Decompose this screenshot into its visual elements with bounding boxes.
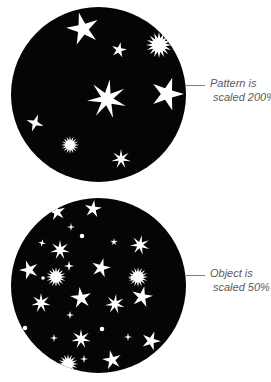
star-icon — [70, 287, 91, 308]
pattern-callout-text: Pattern is scaled 200% — [210, 76, 271, 104]
leader-line-icon — [186, 275, 205, 276]
object-starfield — [11, 198, 186, 373]
star-icon — [111, 149, 131, 168]
star-dot — [80, 234, 85, 239]
starburst-icon — [61, 136, 79, 154]
star-icon — [124, 333, 132, 341]
leader-line-icon — [186, 85, 205, 86]
star-icon — [71, 329, 91, 348]
starburst-icon — [58, 354, 78, 373]
star-icon — [85, 200, 102, 217]
pattern-starfield — [11, 7, 186, 182]
star-icon — [27, 115, 44, 132]
star-dot — [41, 276, 45, 280]
star-icon — [66, 311, 74, 319]
star-icon — [153, 78, 184, 110]
star-icon — [93, 258, 111, 277]
star-icon — [50, 240, 70, 259]
object-disc — [11, 198, 186, 373]
starburst-icon — [46, 267, 66, 287]
star-icon — [132, 286, 152, 307]
star-icon — [110, 238, 118, 245]
star-icon — [50, 334, 58, 342]
object-callout-line2: scaled 50% — [210, 280, 270, 294]
pattern-callout-line2: scaled 200% — [210, 90, 271, 104]
star-icon — [102, 350, 121, 369]
object-callout-line1: Object is — [210, 266, 270, 280]
star-icon — [143, 332, 161, 351]
star-icon — [31, 293, 51, 312]
starburst-icon — [146, 32, 172, 58]
star-icon — [19, 260, 37, 279]
star-icon — [80, 355, 88, 363]
star-icon — [105, 294, 124, 313]
star-icon — [163, 146, 185, 169]
pattern-scaled-panel — [11, 7, 186, 182]
starburst-icon — [128, 267, 148, 287]
star-icon — [48, 203, 65, 220]
star-icon — [130, 235, 149, 254]
star-icon — [112, 42, 127, 57]
star-icon — [87, 79, 126, 118]
star-icon — [64, 261, 74, 271]
star-dot — [23, 326, 28, 331]
star-icon — [67, 223, 75, 231]
star-icon — [123, 370, 131, 373]
object-callout-text: Object is scaled 50% — [210, 266, 270, 294]
object-scaled-panel — [11, 198, 186, 373]
star-icon — [38, 239, 46, 247]
star-icon — [66, 13, 97, 45]
scaling-comparison-figure: Pattern is scaled 200% Object is scaled … — [0, 0, 271, 382]
object-callout: Object is scaled 50% — [186, 266, 270, 294]
star-dot — [100, 327, 105, 332]
pattern-callout-line1: Pattern is — [210, 76, 271, 90]
pattern-disc — [11, 7, 186, 182]
pattern-callout: Pattern is scaled 200% — [186, 76, 271, 104]
